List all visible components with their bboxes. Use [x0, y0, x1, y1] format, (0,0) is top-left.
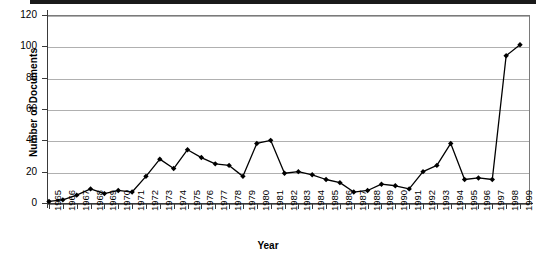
- y-axis-tick: [42, 109, 47, 110]
- x-axis-tick-label: 1969: [108, 190, 118, 211]
- x-axis-tick: [132, 204, 133, 209]
- y-axis-tick: [42, 15, 47, 16]
- y-axis-tick: [42, 140, 47, 141]
- x-axis-tick-label: 1980: [261, 190, 271, 211]
- x-axis-tick: [63, 204, 64, 209]
- x-axis-tick: [271, 204, 272, 209]
- x-axis-tick-label: 1986: [344, 190, 354, 211]
- y-axis-tick: [42, 78, 47, 79]
- x-axis-tick-label: 1996: [482, 190, 492, 211]
- x-axis-tick: [91, 204, 92, 209]
- chart-container: Number of Documents 020406080100120 1965…: [0, 0, 536, 257]
- x-axis-tick: [492, 204, 493, 209]
- x-axis-tick: [381, 204, 382, 209]
- x-axis-tick-label: 1977: [219, 190, 229, 211]
- x-axis-tick: [104, 204, 105, 209]
- y-axis-tick: [42, 46, 47, 47]
- x-axis-tick-label: 1990: [399, 190, 409, 211]
- x-axis-tick: [451, 204, 452, 209]
- x-axis-tick: [285, 204, 286, 209]
- x-axis-tick: [465, 204, 466, 209]
- x-axis-tick: [354, 204, 355, 209]
- x-axis-tick-label: 1973: [164, 190, 174, 211]
- x-axis-tick-label: 1970: [122, 190, 132, 211]
- x-axis-tick: [201, 204, 202, 209]
- x-axis-tick-labels: 1965196619671968196919701971197219731974…: [0, 0, 536, 257]
- x-axis-tick-label: 1967: [81, 190, 91, 211]
- x-axis-tick-label: 1992: [427, 190, 437, 211]
- x-axis-tick-label: 1966: [67, 190, 77, 211]
- x-axis-tick: [409, 204, 410, 209]
- x-axis-tick-label: 1994: [455, 190, 465, 211]
- x-axis-tick-label: 1981: [275, 190, 285, 211]
- x-axis-tick: [215, 204, 216, 209]
- x-axis-tick-label: 1971: [136, 190, 146, 211]
- x-axis-tick: [160, 204, 161, 209]
- x-axis-tick: [340, 204, 341, 209]
- x-axis-tick: [312, 204, 313, 209]
- x-axis-tick: [437, 204, 438, 209]
- x-axis-tick: [49, 204, 50, 209]
- x-axis-tick: [118, 204, 119, 209]
- x-axis-tick-label: 1999: [524, 190, 534, 211]
- x-axis-tick-label: 1987: [358, 190, 368, 211]
- x-axis-tick: [423, 204, 424, 209]
- x-axis-tick: [229, 204, 230, 209]
- x-axis-tick-label: 1985: [330, 190, 340, 211]
- x-axis-tick-label: 1974: [178, 190, 188, 211]
- x-axis-tick: [368, 204, 369, 209]
- x-axis-tick: [257, 204, 258, 209]
- x-axis-tick: [174, 204, 175, 209]
- x-axis-tick-label: 1965: [53, 190, 63, 211]
- x-axis-tick-label: 1997: [496, 190, 506, 211]
- x-axis-tick-label: 1989: [385, 190, 395, 211]
- x-axis-tick-label: 1983: [302, 190, 312, 211]
- x-axis-tick: [520, 204, 521, 209]
- x-axis-tick: [146, 204, 147, 209]
- x-axis-tick-label: 1972: [150, 190, 160, 211]
- x-axis-tick-label: 1976: [205, 190, 215, 211]
- y-axis-tick: [42, 172, 47, 173]
- x-axis-tick: [243, 204, 244, 209]
- x-axis-tick: [395, 204, 396, 209]
- x-axis-tick-label: 1979: [247, 190, 257, 211]
- x-axis-tick: [77, 204, 78, 209]
- x-axis-tick: [478, 204, 479, 209]
- x-axis-tick: [506, 204, 507, 209]
- x-axis-tick-label: 1978: [233, 190, 243, 211]
- y-axis-tick: [42, 203, 47, 204]
- x-axis-tick: [326, 204, 327, 209]
- x-axis-tick-label: 1984: [316, 190, 326, 211]
- x-axis-title: Year: [0, 240, 536, 251]
- x-axis-tick: [188, 204, 189, 209]
- x-axis-tick: [298, 204, 299, 209]
- x-axis-tick-label: 1991: [413, 190, 423, 211]
- x-axis-tick-label: 1998: [510, 190, 520, 211]
- x-axis-tick-label: 1993: [441, 190, 451, 211]
